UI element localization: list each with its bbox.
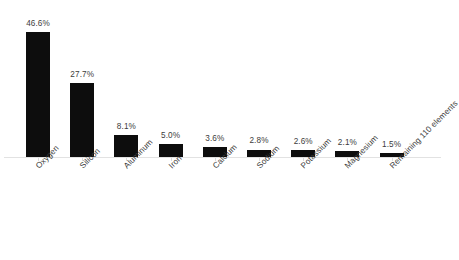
bar-value-label: 46.6% xyxy=(16,19,60,28)
bar-value-label: 5.0% xyxy=(149,131,193,140)
plot-area: 46.6%27.7%8.1%5.0%3.6%2.8%2.6%2.1%1.5% xyxy=(0,0,445,158)
bar xyxy=(26,32,50,157)
bar-value-label: 8.1% xyxy=(104,122,148,131)
bar-value-label: 3.6% xyxy=(193,134,237,143)
category-label-group: OxygenSiliconAluminumIronCalciumSodiumPo… xyxy=(0,158,445,260)
bar-value-label: 27.7% xyxy=(60,70,104,79)
bar xyxy=(70,83,94,157)
